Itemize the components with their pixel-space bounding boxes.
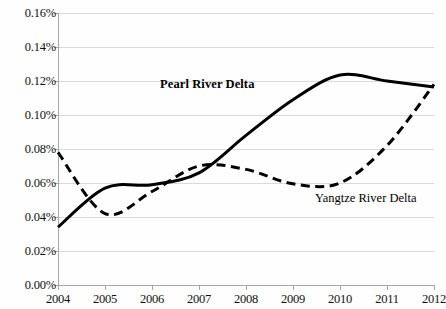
y-tick-label: 0.02%	[2, 245, 56, 258]
x-tick-label: 2004	[46, 293, 70, 306]
y-tick-label: 0.06%	[2, 177, 56, 190]
y-axis-tick-labels: 0.00%0.02%0.04%0.06%0.08%0.10%0.12%0.14%…	[0, 0, 56, 309]
y-tick-label: 0.12%	[2, 75, 56, 88]
y-tick-label: 0.10%	[2, 109, 56, 122]
x-tick-marks	[58, 285, 434, 290]
x-tick-label: 2009	[281, 293, 305, 306]
x-tick-label: 2006	[140, 293, 164, 306]
series-label-yangtze-river-delta: Yangtze River Delta	[315, 192, 416, 205]
y-tick-label: 0.04%	[2, 211, 56, 224]
y-tick-label: 0.16%	[2, 7, 56, 20]
x-tick-label: 2011	[375, 293, 399, 306]
y-tick-label: 0.08%	[2, 143, 56, 156]
x-tick-label: 2007	[187, 293, 211, 306]
x-tick-label: 2010	[328, 293, 352, 306]
series-label-pearl-river-delta: Pearl River Delta	[160, 78, 255, 91]
x-tick-label: 2005	[93, 293, 117, 306]
x-tick-label: 2012	[422, 293, 446, 306]
x-tick-label: 2008	[234, 293, 258, 306]
y-tick-label: 0.14%	[2, 41, 56, 54]
y-tick-label: 0.00%	[2, 279, 56, 292]
gridlines	[58, 13, 434, 285]
